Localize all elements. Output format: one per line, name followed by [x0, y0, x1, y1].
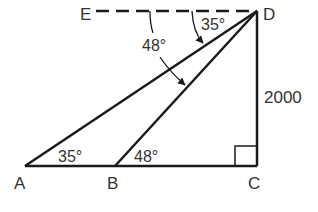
- right-angle-marker: [235, 146, 257, 166]
- angle-arc-48-at-D-upper: [150, 11, 153, 33]
- angle-label-35-at-D: 35°: [201, 16, 225, 33]
- point-label-D: D: [263, 5, 275, 24]
- side-label-CD: 2000: [264, 88, 302, 107]
- segment-BD: [115, 11, 257, 166]
- segment-AD: [25, 11, 257, 166]
- point-label-B: B: [107, 174, 118, 193]
- geometry-diagram: E D A B C 35° 48° 35° 48° 2000: [0, 0, 318, 212]
- point-label-C: C: [248, 174, 260, 193]
- point-label-E: E: [80, 5, 91, 24]
- angle-label-48-at-B: 48°: [134, 148, 158, 165]
- angle-label-48-at-D: 48°: [142, 37, 166, 54]
- point-label-A: A: [14, 174, 26, 193]
- angle-label-35-at-A: 35°: [58, 148, 82, 165]
